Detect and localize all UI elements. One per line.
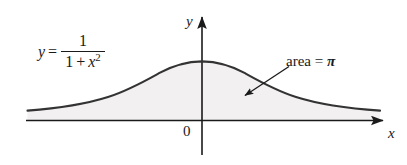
figure-container: y x 0 y = 1 1+x2 area = π	[0, 0, 407, 165]
fraction-numerator: 1	[73, 32, 93, 51]
area-annotation-text: area =	[286, 53, 327, 69]
graph-canvas	[0, 0, 407, 165]
denominator-plus-sign: +	[76, 53, 85, 70]
origin-label: 0	[183, 124, 191, 139]
pi-symbol: π	[327, 53, 335, 69]
denominator-exponent: 2	[95, 51, 100, 63]
fraction-denominator: 1+x2	[61, 52, 105, 71]
denominator-one: 1	[65, 53, 73, 70]
equation-equals-sign: =	[48, 43, 57, 61]
x-axis-label: x	[388, 126, 395, 141]
function-equation-label: y = 1 1+x2	[38, 32, 105, 71]
y-axis-label: y	[186, 14, 193, 29]
equation-lhs: y	[38, 43, 45, 61]
area-annotation-label: area = π	[286, 54, 335, 69]
equation-fraction: 1 1+x2	[61, 32, 105, 71]
